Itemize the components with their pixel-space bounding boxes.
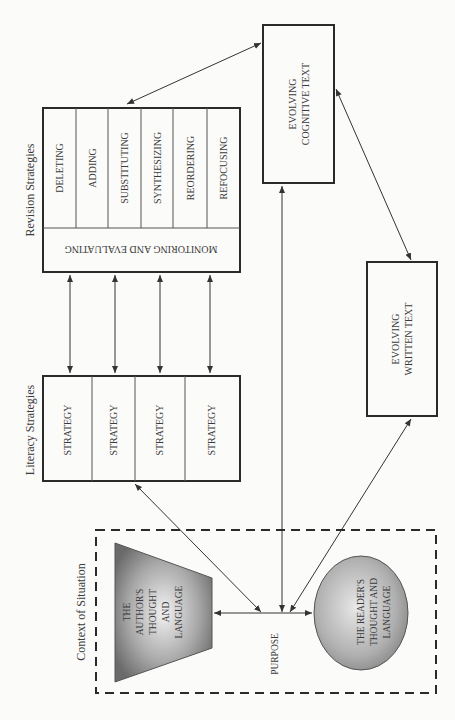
reader-line-2: THOUGHT AND [369,578,379,646]
literacy-strategy-1: STRATEGY [62,404,73,455]
evolving-cognitive-text-box [263,25,334,183]
author-line-3: THOUGHT [148,589,158,635]
literacy-strategy-2: STRATEGY [108,404,119,455]
revision-item-refocusing: REFOCUSING [218,137,229,200]
cognitive-text-line2: COGNITIVE TEXT [300,63,311,145]
author-line-2: AUTHOR'S [135,589,145,636]
literacy-strategy-3: STRATEGY [154,404,165,455]
revision-item-substituting: SUBSTITUTING [119,132,130,204]
evolving-written-text-box [367,262,437,416]
reader-line-3: LANGUAGE [382,585,392,638]
cognitive-text-line1: EVOLVING [287,79,298,130]
revision-item-adding: ADDING [87,148,98,187]
revision-strategies-title: Revision Strategies [23,143,37,236]
revision-item-reordering: REORDERING [185,136,196,200]
purpose-label: PURPOSE [270,633,280,675]
author-line-5: LANGUAGE [174,585,184,638]
reader-line-1: THE READER'S [356,579,366,645]
author-line-1: THE [122,603,132,622]
monitoring-and-evaluating-label: MONITORING AND EVALUATING [65,244,218,255]
revision-item-synthesizing: SYNTHESIZING [152,132,163,204]
context-of-situation-title: Context of Situation [74,563,88,660]
literacy-strategies-title: Literacy Strategies [23,385,37,476]
written-text-line2: WRITTEN TEXT [403,303,414,376]
revision-item-deleting: DELETING [54,143,65,192]
strategy-link-arrows [70,275,210,373]
author-line-4: AND [161,602,171,623]
diagram-canvas: Revision Strategies DELETING ADDING SUBS… [0,0,455,720]
flow-arrows [127,43,411,612]
literacy-strategy-4: STRATEGY [206,404,217,455]
written-text-line1: EVOLVING [390,314,401,365]
